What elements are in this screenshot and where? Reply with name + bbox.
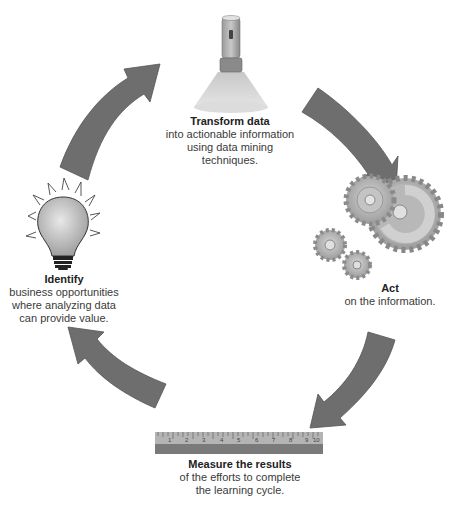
caption-act: Act on the information. bbox=[330, 282, 450, 308]
ruler-label: 9 bbox=[305, 437, 308, 443]
diagram-graphics bbox=[0, 0, 462, 509]
caption-title: Identify bbox=[0, 273, 128, 286]
caption-title: Act bbox=[330, 282, 450, 295]
ruler-label: 1 bbox=[168, 437, 171, 443]
ruler-label: 8 bbox=[289, 437, 292, 443]
arrow-transform-to-act bbox=[302, 88, 398, 190]
caption-identify: Identify business opportunities where an… bbox=[0, 273, 128, 325]
caption-transform: Transform data into actionable informati… bbox=[160, 115, 300, 167]
ruler-label: 2 bbox=[185, 437, 188, 443]
caption-line: can provide value. bbox=[0, 312, 128, 325]
caption-line: business opportunities bbox=[0, 286, 128, 299]
ruler-label: 4 bbox=[220, 437, 223, 443]
caption-title: Measure the results bbox=[160, 458, 320, 471]
gears-icon bbox=[315, 176, 441, 278]
lightbulb-icon bbox=[26, 178, 100, 270]
caption-line: where analyzing data bbox=[0, 299, 128, 312]
caption-line: on the information. bbox=[330, 295, 450, 308]
flashlight-icon bbox=[194, 16, 268, 114]
arrow-identify-to-transform bbox=[60, 64, 160, 180]
ruler-label: 5 bbox=[237, 437, 240, 443]
ruler-label: 7 bbox=[272, 437, 275, 443]
caption-measure: Measure the results of the efforts to co… bbox=[160, 458, 320, 497]
learning-cycle-diagram: 1 2 3 4 5 6 7 8 9 10 Transform data into… bbox=[0, 0, 462, 509]
ruler-label: 6 bbox=[255, 437, 258, 443]
caption-line: the learning cycle. bbox=[160, 484, 320, 497]
caption-line: using data mining techniques. bbox=[160, 141, 300, 167]
arrow-measure-to-identify bbox=[68, 327, 166, 408]
ruler-label: 3 bbox=[202, 437, 205, 443]
arrow-act-to-measure bbox=[310, 332, 395, 428]
caption-title: Transform data bbox=[160, 115, 300, 128]
caption-line: of the efforts to complete bbox=[160, 471, 320, 484]
ruler-label: 10 bbox=[313, 437, 320, 443]
ruler-labels: 1 2 3 4 5 6 7 8 9 10 bbox=[155, 437, 323, 445]
caption-line: into actionable information bbox=[160, 128, 300, 141]
